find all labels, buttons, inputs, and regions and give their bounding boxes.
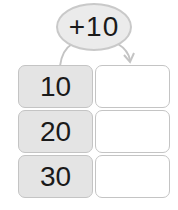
input-cell-2: 20 xyxy=(18,110,93,153)
output-cell-3[interactable] xyxy=(95,155,170,198)
arrow-icon xyxy=(118,44,130,60)
input-cell-3: 30 xyxy=(18,155,93,198)
output-cell-1[interactable] xyxy=(95,65,170,108)
operator-bubble: +10 xyxy=(56,3,132,51)
output-cell-2[interactable] xyxy=(95,110,170,153)
operator-label: +10 xyxy=(69,11,120,43)
input-cell-1: 10 xyxy=(18,65,93,108)
